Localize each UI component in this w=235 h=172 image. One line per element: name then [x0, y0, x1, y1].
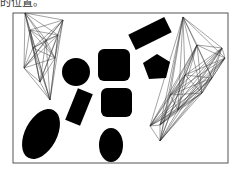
shape-tilted-rect [65, 88, 93, 126]
shape-rounded-square-top [98, 49, 130, 81]
solid-shapes [14, 17, 172, 165]
shape-pentagon [143, 54, 170, 79]
shape-ellipse-large [14, 103, 68, 166]
shape-circle [62, 58, 90, 86]
shape-ellipse-small [99, 128, 123, 162]
geometric-figure [0, 0, 235, 172]
shape-rounded-square-mid [101, 88, 132, 117]
shape-rotated-rect [128, 17, 171, 50]
left-polytope [24, 13, 63, 100]
